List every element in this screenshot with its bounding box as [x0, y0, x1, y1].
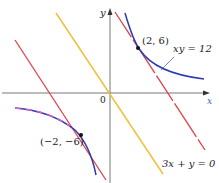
- line-label: 3x + y = 0: [162, 158, 216, 169]
- dashed-overlay: [15, 108, 70, 126]
- plot: y x 0 (2, 6) xy = 12 (−2, −6) 3x + y = 0: [0, 0, 219, 183]
- label-pointer: [161, 57, 174, 70]
- y-axis-label: y: [99, 7, 106, 18]
- curve-label: xy = 12: [173, 43, 212, 54]
- tangent-line-right: [115, 12, 205, 150]
- diagram: y x 0 (2, 6) xy = 12 (−2, −6) 3x + y = 0: [0, 0, 219, 183]
- x-axis-label: x: [207, 96, 212, 106]
- y-arrow-icon: [108, 8, 113, 15]
- point2-label: (−2, −6): [40, 136, 84, 147]
- x-arrow-icon: [203, 91, 210, 96]
- point-2-6: [136, 46, 140, 50]
- origin-label: 0: [100, 95, 106, 105]
- point1-label: (2, 6): [142, 35, 169, 46]
